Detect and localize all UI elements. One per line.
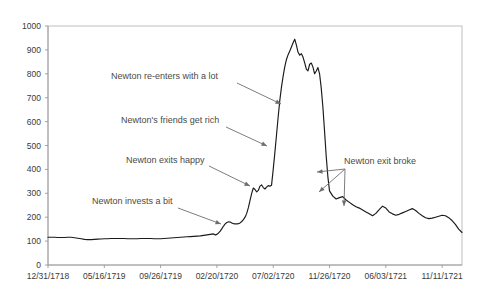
x-tick-label: 11/11/1721 [421, 271, 463, 281]
y-tick-label: 200 [27, 212, 41, 222]
chart-background [0, 0, 497, 305]
y-tick-label: 600 [27, 117, 41, 127]
y-tick-label: 500 [27, 141, 41, 151]
annotation-label: Newton's friends get rich [121, 115, 219, 125]
y-tick-label: 100 [27, 236, 41, 246]
y-tick-label: 900 [27, 45, 41, 55]
x-tick-label: 09/26/1719 [139, 271, 182, 281]
x-tick-label: 06/03/1721 [365, 271, 408, 281]
y-tick-label: 0 [36, 260, 41, 270]
x-tick-label: 11/26/1720 [309, 271, 351, 281]
x-tick-label: 02/20/1720 [196, 271, 239, 281]
annotation-label: Newton exit broke [344, 156, 416, 166]
annotation-label: Newton exits happy [126, 155, 205, 165]
chart-container: 01002003004005006007008009001000 12/31/1… [0, 0, 497, 305]
x-tick-label: 05/16/1719 [83, 271, 126, 281]
x-tick-label: 12/31/1718 [27, 271, 70, 281]
y-tick-label: 1000 [22, 21, 41, 31]
south-sea-bubble-line-chart: 01002003004005006007008009001000 12/31/1… [0, 0, 497, 305]
annotation-label: Newton re-enters with a lot [111, 71, 219, 81]
y-tick-label: 800 [27, 69, 41, 79]
x-tick-label: 07/02/1720 [252, 271, 295, 281]
y-tick-label: 700 [27, 93, 41, 103]
y-tick-label: 300 [27, 188, 41, 198]
y-tick-label: 400 [27, 164, 41, 174]
annotation-label: Newton invests a bit [92, 196, 173, 206]
